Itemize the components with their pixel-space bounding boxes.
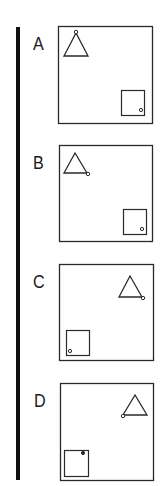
square-dot-marker [81, 451, 84, 454]
square-dot-marker [140, 227, 143, 230]
option-panel-b[interactable] [60, 146, 153, 242]
option-panel-d[interactable] [61, 384, 154, 481]
outer-frame [61, 384, 154, 481]
options-diagram [0, 0, 167, 486]
triangle-dot-marker [74, 30, 77, 33]
square-dot-marker [139, 108, 142, 111]
outer-frame [60, 146, 153, 242]
triangle-dot-marker [121, 414, 124, 417]
triangle-shape [64, 33, 88, 56]
option-panel-c[interactable] [60, 265, 154, 361]
option-panel-a[interactable] [59, 27, 153, 124]
triangle-shape [64, 153, 87, 173]
triangle-dot-marker [86, 172, 89, 175]
triangle-shape [123, 395, 147, 415]
outer-frame [60, 265, 154, 361]
small-square-shape [65, 451, 89, 477]
square-dot-marker [68, 349, 71, 352]
triangle-shape [119, 276, 142, 297]
triangle-dot-marker [141, 296, 144, 299]
outer-frame [59, 27, 153, 124]
